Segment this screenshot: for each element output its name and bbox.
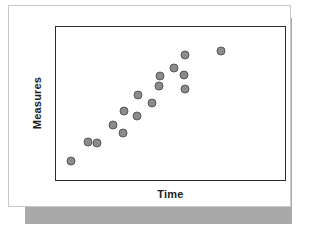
- scatter-point: [133, 111, 142, 120]
- scatter-point: [169, 64, 178, 73]
- scatter-point: [148, 99, 157, 108]
- scatter-point: [134, 91, 143, 100]
- x-axis-label: Time: [55, 188, 286, 200]
- scatter-point: [181, 84, 190, 93]
- scatter-plot-figure: Measures Time: [0, 0, 316, 230]
- scatter-point: [180, 71, 189, 80]
- figure-card: Measures Time: [8, 5, 291, 207]
- plot-area: [56, 27, 285, 180]
- y-axis-label: Measures: [31, 77, 43, 129]
- scatter-point: [120, 107, 129, 116]
- scatter-point: [156, 71, 165, 80]
- scatter-point: [83, 137, 92, 146]
- scatter-point: [216, 46, 225, 55]
- scatter-point: [92, 138, 101, 147]
- scatter-point: [119, 128, 128, 137]
- plot-frame: [55, 26, 286, 181]
- scatter-point: [66, 156, 75, 165]
- scatter-point: [109, 120, 118, 129]
- scatter-point: [155, 81, 164, 90]
- scatter-point: [180, 51, 189, 60]
